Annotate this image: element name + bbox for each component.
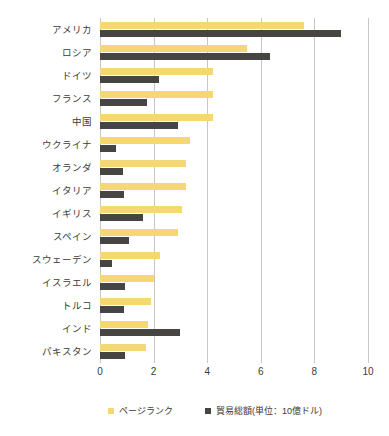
category-label: ロシア [0,48,92,58]
category-label: パキスタン [0,347,92,357]
bar [100,306,124,313]
bar [100,260,112,267]
category-label: スウェーデン [0,255,92,265]
bar [100,229,178,236]
category-label: イギリス [0,209,92,219]
bar [100,168,123,175]
plot-area [100,18,368,363]
bar [100,68,213,75]
category-label: ウクライナ [0,140,92,150]
bar [100,298,151,305]
bar-chart: アメリカロシアドイツフランス中国ウクライナオランダイタリアイギリススペインスウェ… [0,0,389,436]
gridline [261,18,262,363]
category-label: 中国 [0,117,92,127]
value-tick-label: 10 [353,366,383,378]
value-axis-tick-labels: 0246810 [0,366,389,382]
chart-legend: ページランク貿易総額(単位：10億ドル) [0,404,389,422]
legend-swatch-icon [205,408,211,414]
bar [100,30,341,37]
category-label: スペイン [0,232,92,242]
legend-item[interactable]: ページランク [108,404,173,418]
bar [100,160,186,167]
bar [100,122,178,129]
bar [100,114,213,121]
category-label: トルコ [0,301,92,311]
category-axis-labels: アメリカロシアドイツフランス中国ウクライナオランダイタリアイギリススペインスウェ… [0,18,92,363]
legend-item[interactable]: 貿易総額(単位：10億ドル) [205,404,322,418]
gridline [368,18,369,363]
bar [100,76,159,83]
value-tick-label: 4 [192,366,222,378]
category-label: ドイツ [0,71,92,81]
gridline [314,18,315,363]
bar [100,283,125,290]
category-label: オランダ [0,163,92,173]
category-label: イタリア [0,186,92,196]
bar [100,137,190,144]
bar [100,352,125,359]
bar [100,183,186,190]
value-tick-label: 8 [299,366,329,378]
bar [100,214,143,221]
bar [100,45,247,52]
bar [100,22,304,29]
bar [100,275,154,282]
value-tick-label: 6 [246,366,276,378]
category-label: イスラエル [0,278,92,288]
bar [100,206,182,213]
value-tick-label: 2 [139,366,169,378]
legend-label: 貿易総額(単位：10億ドル) [216,406,322,417]
bar [100,99,147,106]
bar [100,237,129,244]
bar [100,321,148,328]
legend-swatch-icon [108,408,114,414]
category-label: アメリカ [0,25,92,35]
bar [100,329,180,336]
bar [100,344,146,351]
bar [100,53,270,60]
value-tick-label: 0 [85,366,115,378]
bar [100,145,116,152]
category-label: インド [0,324,92,334]
legend-label: ページランク [119,406,173,417]
category-label: フランス [0,94,92,104]
bar [100,191,124,198]
bar [100,252,160,259]
bar [100,91,213,98]
